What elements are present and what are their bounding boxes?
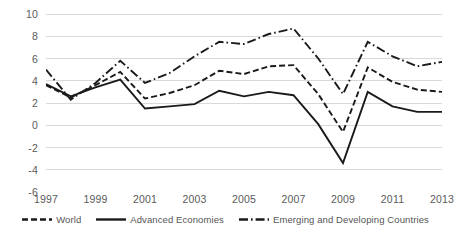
chart-legend: WorldAdvanced EconomiesEmerging and Deve… xyxy=(0,210,451,228)
y-tick-label: 2 xyxy=(32,97,38,109)
series-line xyxy=(46,80,442,163)
x-tick-label: 2005 xyxy=(232,193,256,205)
x-tick-label: 2009 xyxy=(331,193,355,205)
legend-item[interactable]: Advanced Economies xyxy=(96,214,224,225)
x-tick-label: 1997 xyxy=(34,193,58,205)
legend-swatch-icon xyxy=(22,215,52,224)
plot-area xyxy=(46,14,442,192)
legend-item[interactable]: World xyxy=(22,214,81,225)
x-tick-label: 2007 xyxy=(281,193,305,205)
y-tick-label: -2 xyxy=(28,142,38,154)
x-tick-label: 2003 xyxy=(182,193,206,205)
x-tick-label: 1999 xyxy=(83,193,107,205)
legend-label: Emerging and Developing Countries xyxy=(273,214,429,225)
legend-swatch-icon xyxy=(96,215,126,224)
y-tick-label: 0 xyxy=(32,119,38,131)
y-tick-label: 6 xyxy=(32,53,38,65)
series-line xyxy=(46,28,442,99)
series-lines xyxy=(46,14,442,192)
legend-item[interactable]: Emerging and Developing Countries xyxy=(239,214,429,225)
series-line xyxy=(46,65,442,132)
x-tick-label: 2013 xyxy=(430,193,454,205)
y-axis: 1086420-2-4-6 xyxy=(0,14,42,192)
y-tick-label: 4 xyxy=(32,75,38,87)
x-axis: 199719992001200320052007200920112013 xyxy=(46,193,442,209)
y-tick-label: -4 xyxy=(28,164,38,176)
x-tick-label: 2001 xyxy=(133,193,157,205)
y-tick-label: 10 xyxy=(26,8,38,20)
x-tick-label: 2011 xyxy=(381,193,404,205)
legend-swatch-icon xyxy=(239,215,269,224)
legend-label: World xyxy=(56,214,81,225)
y-tick-label: 8 xyxy=(32,30,38,42)
legend-label: Advanced Economies xyxy=(130,214,224,225)
